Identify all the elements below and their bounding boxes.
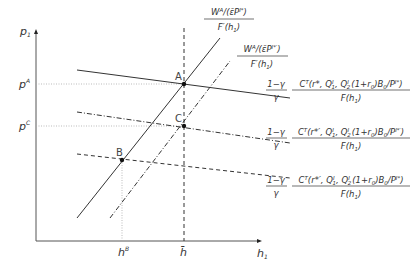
demand-dashdot-numerator: CT(r*′, QI1, QI2(1+r0)B0/PI*′): [298, 127, 404, 138]
x-axis-label: h1: [257, 247, 268, 260]
demand-dashdot-denominator: F(h1): [341, 141, 361, 152]
demand-dashed-denominator: F(h1): [341, 189, 361, 200]
point-A-label: A: [175, 71, 182, 82]
x-tick-hB: hB: [118, 245, 129, 259]
coef-num: 1−γ: [267, 79, 286, 89]
point-A: [182, 82, 186, 86]
supply-curve-dashdot: [110, 61, 230, 218]
label-supply-dashdot: WA/(ε̄PI*′) F′(h1): [237, 44, 288, 70]
label-demand-solid: 1−γ γ CT(r*, QI1, QI2(1+r0)B0/PI*) F(h1): [266, 79, 410, 104]
point-C: [182, 124, 186, 128]
coef-num: 1−γ: [267, 127, 286, 137]
x-axis-arrow-icon: [257, 239, 262, 243]
label-supply-solid: WA/(ε̄PI*) F′(h1): [204, 7, 254, 33]
supply-dashdot-denominator: F′(h1): [251, 59, 273, 70]
point-C-label: C: [175, 113, 182, 124]
y-axis-arrow-icon: [34, 29, 38, 34]
label-demand-dashed: 1−γ γ CT(r*′, QI1, QI2(1+r0)B0/PI*) F(h1…: [266, 175, 410, 200]
y-tick-pC: pC: [18, 119, 31, 133]
supply-solid-numerator: WA/(ε̄PI*): [211, 7, 247, 17]
coef-den: γ: [273, 188, 279, 198]
supply-solid-denominator: F′(h1): [218, 22, 240, 33]
y-axis-label: p1: [19, 25, 31, 38]
supply-curve-solid: [77, 38, 220, 218]
y-tick-pA: pA: [18, 77, 30, 91]
axes: [34, 29, 262, 243]
equilibrium-diagram: p1 h1 pA pC hB h̄ A C B WA/(ε̄PI*) F′(h1…: [0, 0, 418, 268]
x-tick-hbar: h̄: [180, 246, 187, 259]
point-B-label: B: [116, 147, 123, 158]
demand-solid-numerator: CT(r*, QI1, QI2(1+r0)B0/PI*): [299, 79, 402, 90]
demand-dashed-numerator: CT(r*′, QI1, QI2(1+r0)B0/PI*): [299, 175, 404, 186]
label-demand-dashdot: 1−γ γ CT(r*′, QI1, QI2(1+r0)B0/PI*′) F(h…: [266, 127, 410, 152]
supply-dashdot-numerator: WA/(ε̄PI*′): [243, 44, 280, 54]
demand-solid-denominator: F(h1): [341, 93, 361, 104]
coef-num: 1−γ: [267, 175, 286, 185]
point-B: [120, 158, 124, 162]
